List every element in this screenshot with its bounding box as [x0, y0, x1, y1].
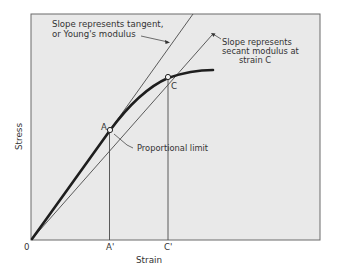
tangent-annotation-line1: Slope represents tangent,	[52, 19, 163, 29]
stress-strain-diagram: Slope represents tangent, or Young's mod…	[0, 0, 339, 279]
proportional-limit-label: Proportional limit	[137, 143, 209, 153]
tangent-annotation-line2: or Young's modulus	[52, 29, 136, 39]
point-a-label: A	[101, 122, 107, 132]
a-prime-tick-label: A'	[106, 242, 114, 252]
x-axis-label: Strain	[136, 255, 162, 265]
point-c-marker	[165, 74, 170, 79]
y-axis-label: Stress	[14, 123, 24, 150]
point-c-label: C	[171, 81, 177, 91]
c-prime-tick-label: C'	[164, 242, 172, 252]
point-a-marker	[107, 127, 112, 132]
secant-annotation-line3: strain C	[239, 55, 271, 65]
origin-label: 0	[24, 242, 29, 252]
